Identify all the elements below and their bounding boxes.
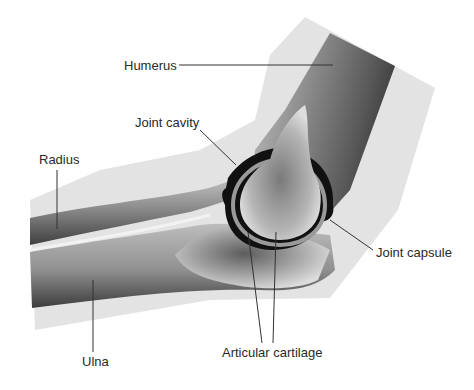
label-ulna: Ulna (82, 355, 109, 368)
label-radius: Radius (39, 153, 79, 166)
label-articular-cartilage: Articular cartilage (222, 346, 322, 359)
label-joint-cavity: Joint cavity (135, 116, 199, 129)
label-joint-capsule: Joint capsule (376, 246, 452, 259)
label-humerus: Humerus (124, 59, 177, 72)
elbow-joint-illustration (0, 0, 474, 390)
